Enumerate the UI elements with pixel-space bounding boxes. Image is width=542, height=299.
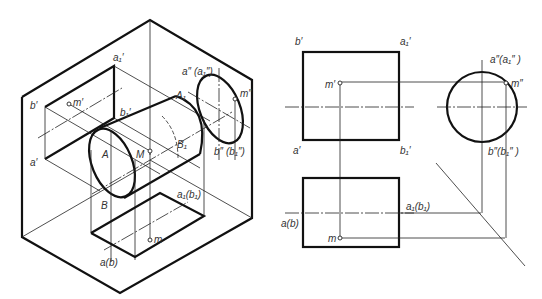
label-iso-a1-prime: a₁′ xyxy=(113,53,124,63)
label-iso-b1-prime: b₁′ xyxy=(120,108,131,118)
label-iso-m-prime: m′ xyxy=(73,98,83,108)
front-view xyxy=(285,52,504,238)
label-iso-b-dbl: b″ (b₁″) xyxy=(214,147,245,157)
label-side-b-dbl: b″(b₁″ ) xyxy=(488,147,519,157)
projection-drawing xyxy=(0,0,542,299)
label-iso-a-prime: a′ xyxy=(30,158,37,168)
side-view xyxy=(436,60,527,266)
label-top-a1-b1: a₁(b₁) xyxy=(406,202,430,212)
top-view xyxy=(285,178,505,247)
label-iso-a1-b1: a₁(b₁) xyxy=(177,190,201,200)
label-iso-b-prime: b′ xyxy=(30,101,37,111)
label-iso-A: A xyxy=(102,150,109,160)
h-centerline xyxy=(104,202,188,250)
point-m-prime-iso xyxy=(67,102,71,106)
point-M-iso xyxy=(148,149,152,153)
v-projection-rect xyxy=(45,66,114,159)
label-iso-M: M xyxy=(136,150,144,160)
label-top-a-b: a(b) xyxy=(281,219,299,229)
b-prime-projector xyxy=(45,107,160,174)
label-front-b-prime: b′ xyxy=(295,37,302,47)
label-iso-m: m xyxy=(154,235,162,245)
point-m-iso xyxy=(148,238,152,242)
label-front-a1-prime: a₁′ xyxy=(400,37,411,47)
point-m-dbl-iso xyxy=(233,97,237,101)
label-side-m-dbl: m″ xyxy=(511,79,523,89)
front-view-rect xyxy=(303,52,399,140)
back-floor-edge-right xyxy=(150,160,252,218)
label-side-a-dbl: a″(a₁″ ) xyxy=(490,55,521,65)
label-iso-a-dbl: a″ (a₁″) xyxy=(182,67,213,77)
cylinder-top-generatrix xyxy=(100,96,176,128)
label-iso-m-dbl: m″ xyxy=(240,89,252,99)
point-m-dbl xyxy=(504,81,508,85)
cylinder-axis xyxy=(92,112,232,194)
back-floor-edge-left xyxy=(22,163,150,237)
label-front-b1-prime: b₁′ xyxy=(400,146,411,156)
point-m xyxy=(338,236,342,240)
label-front-a-prime: a′ xyxy=(293,146,300,156)
label-front-m-prime: m′ xyxy=(325,80,335,90)
label-iso-B: B xyxy=(101,201,108,211)
w-projection-ellipse xyxy=(188,68,252,150)
point-m-prime xyxy=(338,81,342,85)
top-view-rect xyxy=(303,178,399,247)
label-top-m: m xyxy=(328,234,336,244)
45-degree-line xyxy=(436,163,525,266)
label-iso-a-b: a(b) xyxy=(100,258,118,268)
label-iso-B1: B₁ xyxy=(177,140,187,150)
label-iso-A1: A₁ xyxy=(176,91,186,101)
